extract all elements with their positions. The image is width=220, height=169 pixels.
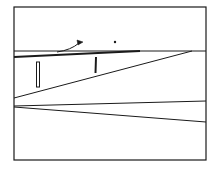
single-bar-mark <box>96 57 97 73</box>
dot-mark <box>114 41 116 43</box>
diagonal-line <box>14 51 192 98</box>
lower-line-b <box>14 107 206 122</box>
upper-thick-line <box>14 51 140 57</box>
double-bar-mark <box>37 62 40 87</box>
frame-border <box>14 7 206 160</box>
line-diagram <box>0 0 220 169</box>
diagram-group <box>14 7 206 160</box>
lower-line-a <box>14 101 206 106</box>
arrow-head-icon <box>77 40 83 45</box>
